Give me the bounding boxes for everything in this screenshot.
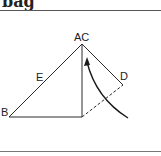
label-e: E — [36, 71, 43, 83]
label-b: B — [1, 106, 8, 118]
label-d: D — [120, 70, 128, 82]
fold-diagram — [0, 0, 161, 156]
bottom-rule — [0, 151, 161, 152]
label-ac: AC — [74, 31, 89, 43]
